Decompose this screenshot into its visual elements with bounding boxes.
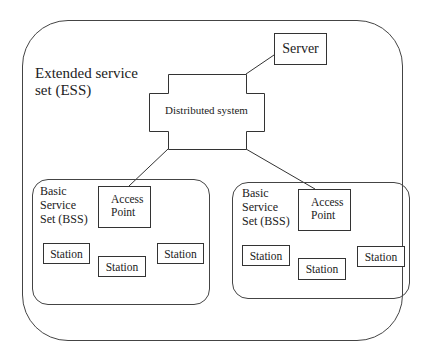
- bss-left-label-line3: Set (BSS): [40, 212, 88, 226]
- bss-left-access-point: Access Point: [98, 186, 151, 228]
- station-label: Station: [50, 248, 83, 260]
- bss-left-label-line1: Basic: [40, 184, 88, 198]
- station-label: Station: [164, 248, 197, 260]
- station-label: Station: [306, 263, 339, 275]
- distributed-system-label: Distributed system: [149, 104, 264, 116]
- server-node: Server: [274, 33, 327, 65]
- bss-left-label-line2: Service: [40, 198, 88, 212]
- bss-left-station-2: Station: [98, 256, 146, 277]
- bss-right-station-1: Station: [242, 245, 290, 266]
- access-point-label-line2: Point: [311, 209, 350, 222]
- station-label: Station: [365, 251, 398, 263]
- server-label: Server: [282, 41, 319, 57]
- station-label: Station: [106, 261, 139, 273]
- bss-left-station-1: Station: [43, 243, 90, 264]
- access-point-label-line2: Point: [111, 206, 150, 219]
- bss-left-station-3: Station: [157, 243, 204, 264]
- bss-right-label-line1: Basic: [242, 186, 290, 200]
- bss-left-label: Basic Service Set (BSS): [40, 184, 88, 226]
- bss-right-label-line3: Set (BSS): [242, 214, 290, 228]
- access-point-label-line1: Access: [311, 196, 350, 209]
- access-point-label-line1: Access: [111, 193, 150, 206]
- bss-right-access-point: Access Point: [298, 189, 351, 231]
- bss-right-station-3: Station: [357, 246, 405, 267]
- bss-right-station-2: Station: [298, 258, 346, 280]
- station-label: Station: [250, 250, 283, 262]
- ds-to-server-line: [246, 55, 274, 74]
- bss-right-label: Basic Service Set (BSS): [242, 186, 290, 228]
- bss-right-label-line2: Service: [242, 200, 290, 214]
